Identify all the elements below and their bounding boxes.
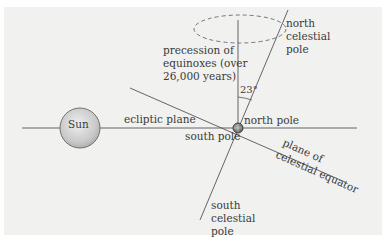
north-celestial-pole-label-line3: pole — [286, 43, 309, 56]
south-celestial-pole-label-line2: celestial — [211, 212, 255, 225]
angle-label: 23° — [240, 84, 258, 97]
precession-ellipse — [194, 15, 286, 43]
sun-label: Sun — [68, 118, 89, 131]
precession-label-line1: precession of — [163, 44, 234, 57]
north-celestial-pole-label-line2: celestial — [286, 30, 330, 43]
south-celestial-pole-label-line3: pole — [211, 225, 234, 238]
angle-arc — [238, 97, 252, 100]
south-celestial-pole-label-line1: south — [211, 199, 240, 212]
ecliptic-plane-label: ecliptic plane — [124, 113, 196, 126]
precession-label-line3: 26,000 years) — [163, 70, 236, 83]
south-pole-label: south pole — [185, 130, 240, 143]
north-celestial-pole-label-line1: north — [286, 17, 315, 30]
north-pole-label: north pole — [244, 114, 299, 127]
precession-label-line2: equinoxes (over — [163, 57, 248, 70]
